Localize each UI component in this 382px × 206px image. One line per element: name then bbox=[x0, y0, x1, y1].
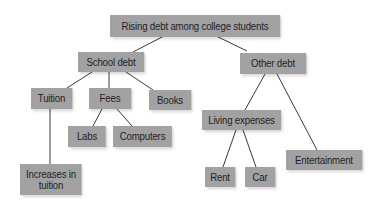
node-label: Tuition bbox=[38, 93, 65, 104]
edge-fees-computers bbox=[117, 109, 132, 126]
node-computers: Computers bbox=[113, 126, 172, 147]
debt-tree-diagram: Rising debt among college students Schoo… bbox=[0, 0, 382, 206]
node-school-debt: School debt bbox=[78, 52, 144, 72]
edge-other-debt-living-expenses bbox=[245, 74, 265, 110]
node-label: Rising debt among college students bbox=[122, 21, 269, 32]
node-label: Books bbox=[157, 95, 183, 106]
node-labs: Labs bbox=[68, 126, 106, 147]
node-living-expenses: Living expenses bbox=[202, 110, 281, 130]
node-other-debt: Other debt bbox=[240, 53, 306, 74]
edge-living-expenses-rent bbox=[223, 130, 236, 167]
edge-living-expenses-car bbox=[243, 130, 256, 167]
edge-root-other-debt bbox=[214, 35, 247, 51]
node-label: Labs bbox=[77, 131, 97, 142]
node-entertainment: Entertainment bbox=[286, 150, 362, 170]
node-label: Other debt bbox=[251, 58, 295, 69]
node-label: Car bbox=[252, 172, 267, 183]
node-label: Fees bbox=[100, 93, 121, 104]
edge-other-debt-entertainment bbox=[277, 74, 317, 150]
edge-school-debt-tuition bbox=[67, 72, 92, 88]
node-label: School debt bbox=[86, 57, 135, 68]
node-label: Computers bbox=[120, 131, 166, 142]
node-rent: Rent bbox=[205, 167, 235, 187]
node-label: Rent bbox=[210, 172, 230, 183]
node-tuition: Tuition bbox=[31, 88, 72, 109]
node-label: Entertainment bbox=[295, 155, 353, 166]
edge-root-school-debt bbox=[133, 35, 166, 52]
node-label: Living expenses bbox=[208, 115, 275, 126]
node-books: Books bbox=[149, 90, 191, 110]
edge-fees-labs bbox=[93, 109, 102, 126]
node-car: Car bbox=[245, 167, 275, 187]
node-fees: Fees bbox=[89, 88, 131, 109]
node-increases-in-tuition: Increases in tuition bbox=[20, 164, 82, 195]
node-root: Rising debt among college students bbox=[110, 15, 280, 37]
node-label: Increases in tuition bbox=[23, 169, 79, 191]
